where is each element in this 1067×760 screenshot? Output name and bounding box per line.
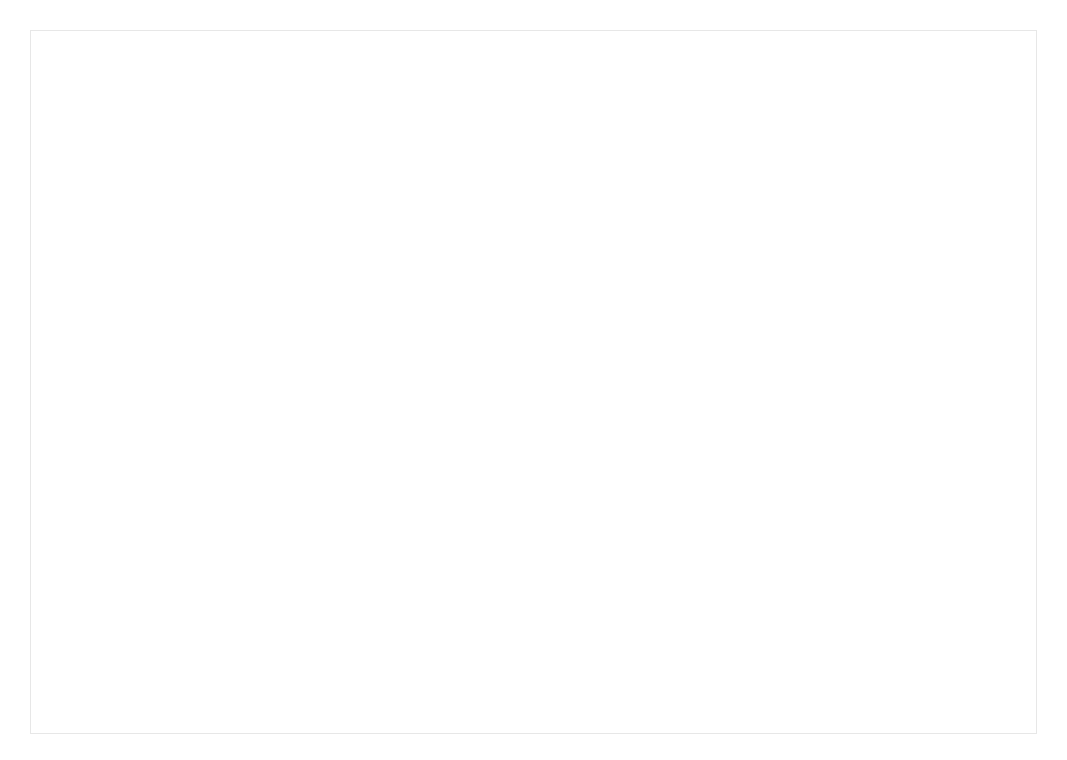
- histogram-artwork: [0, 0, 1067, 760]
- figure-canvas: [0, 0, 1067, 760]
- label-statistical-process-control: [855, 586, 1035, 613]
